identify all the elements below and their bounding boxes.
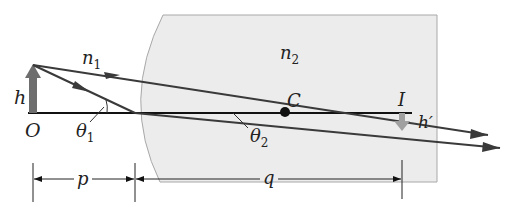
C-label: C xyxy=(287,90,301,111)
O-label: O xyxy=(25,119,41,141)
object-arrow xyxy=(25,64,41,113)
n1-label: n1 xyxy=(82,47,101,72)
I-label: I xyxy=(397,89,406,110)
p-dimension: p xyxy=(34,168,134,189)
p-label: p xyxy=(77,168,89,189)
h-prime-label: h′ xyxy=(418,112,433,132)
theta1-arc xyxy=(106,100,107,113)
refraction-diagram: n1 n2 h O θ1 θ2 C I h′ p q xyxy=(0,0,510,221)
theta1-label: θ1 xyxy=(76,120,94,145)
h-label: h xyxy=(14,86,26,108)
theta1-leader xyxy=(90,107,104,122)
q-label: q xyxy=(263,167,275,188)
